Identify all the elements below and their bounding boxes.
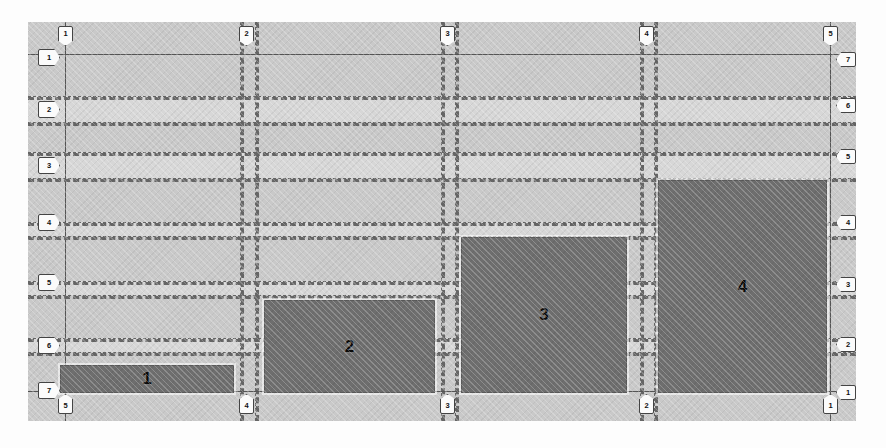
horizontal-gridline: [28, 122, 856, 126]
shaded-zone[interactable]: 1: [60, 365, 234, 393]
shaded-zone[interactable]: 3: [461, 237, 627, 393]
shaded-zone[interactable]: 4: [658, 180, 827, 393]
horizontal-gridline: [28, 54, 856, 55]
zone-label: 4: [738, 277, 747, 297]
zone-label: 2: [345, 337, 354, 357]
plan-canvas[interactable]: 1234: [28, 22, 856, 421]
zone-label: 1: [142, 369, 151, 389]
zone-label: 3: [539, 305, 548, 325]
shaded-zone[interactable]: 2: [264, 300, 435, 393]
drawing-sheet: 1234 123455432112345677654321: [0, 0, 886, 448]
horizontal-gridline: [28, 96, 856, 100]
horizontal-gridline: [28, 152, 856, 156]
